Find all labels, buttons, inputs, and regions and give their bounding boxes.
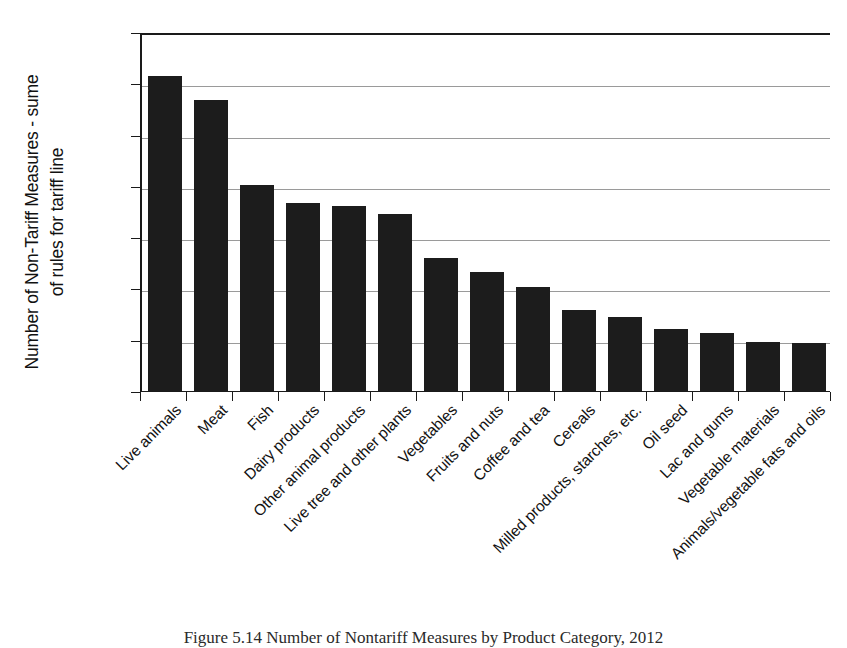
y-tick-mark [131,84,140,85]
bar [194,100,227,391]
x-axis-category-label-text: Live animals [113,402,184,473]
figure-container: Number of Non-Tariff Measures - sume of … [0,0,847,648]
gridline [142,138,830,139]
bar [148,76,181,391]
x-axis-category-label-text: Fish [245,402,277,434]
y-axis-title: Number of Non-Tariff Measures - sume of … [20,22,80,422]
y-tick-mark [131,289,140,290]
y-tick-mark [131,33,140,34]
figure-caption: Figure 5.14 Number of Nontariff Measures… [0,628,847,648]
y-tick-mark [131,341,140,342]
bar [240,185,273,391]
y-tick-mark [131,187,140,188]
y-tick-mark [131,392,140,393]
y-tick-mark [131,136,140,137]
x-axis-category-label-text: Meat [195,402,230,437]
x-tick-mark [140,392,141,401]
y-tick-mark [131,238,140,239]
gridline [142,86,830,87]
bar [286,203,319,391]
